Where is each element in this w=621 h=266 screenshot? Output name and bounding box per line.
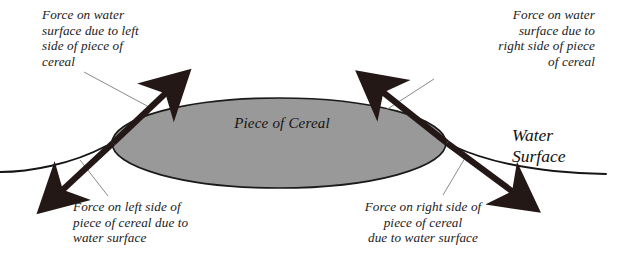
label-force-on-cereal-left: Force on left side of piece of cereal du… (73, 199, 223, 246)
label-force-on-water-left: Force on water surface due to left side … (42, 7, 192, 69)
label-piece-of-cereal: Piece of Cereal (212, 115, 352, 132)
leader-bottom-left (80, 160, 108, 196)
leader-bottom-right (443, 158, 465, 195)
leader-top-right (386, 79, 434, 110)
leader-top-left (84, 72, 149, 107)
cereal-ellipse (112, 98, 446, 188)
label-water-surface: Water Surface (512, 125, 612, 167)
label-force-on-water-right: Force on water surface due to right side… (437, 7, 595, 69)
force-diagram: Force on water surface due to left side … (0, 0, 621, 266)
label-force-on-cereal-right: Force on right side of piece of cereal d… (343, 199, 503, 246)
